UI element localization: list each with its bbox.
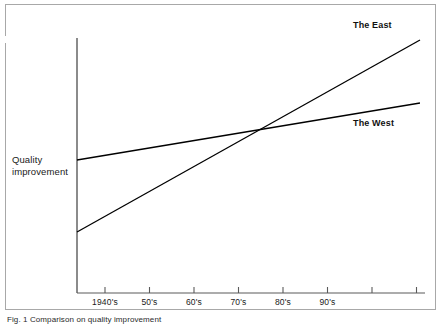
x-axis-tick-label: 70's [230,297,246,307]
series-lines [77,40,420,232]
series-line-the-west [77,103,420,160]
series-label-the-west: The West [353,118,394,128]
x-axis-tick-label: 80's [275,297,291,307]
figure-root: Quality improvement The East The West 19… [0,0,445,324]
y-axis-label-line-1: Quality [12,154,42,165]
figure-caption: Fig. 1 Comparison on quality improvement [7,315,161,324]
x-axis-tick-label: 50's [141,297,157,307]
series-line-the-east [77,40,420,232]
x-axis-tick-label: 90's [319,297,335,307]
y-axis-label-line-2: improvement [12,166,74,178]
x-axis-tick-label: 60's [186,297,202,307]
x-axis-ticks [105,287,417,293]
series-label-the-east: The East [353,20,392,30]
x-axis-tick-label: 1940's [92,297,118,307]
y-axis-label: Quality improvement [12,154,74,177]
